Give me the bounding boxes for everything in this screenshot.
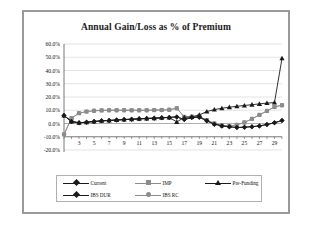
x-tick-label: 5: [93, 140, 96, 146]
x-tick-label: 3: [78, 140, 81, 146]
x-tick-label: 7: [108, 140, 111, 146]
legend-row-1: Current IMP Pre-Funding: [57, 177, 261, 189]
x-tick-label: 25: [242, 140, 248, 146]
line-marker-square-icon: [135, 179, 161, 188]
legend-item-imp[interactable]: IMP: [135, 177, 205, 189]
series-pre-funding: [61, 56, 284, 125]
x-tick-label: 21: [212, 140, 218, 146]
legend-label: IMP: [163, 180, 172, 186]
legend-label: IBS DUR: [91, 192, 111, 198]
y-tick-label: -10.0%: [44, 134, 61, 140]
line-marker-diamond-icon: [63, 191, 89, 200]
y-tick-label: 10.0%: [46, 107, 61, 113]
line-marker-diamond-icon: [63, 179, 89, 188]
legend-label: Current: [91, 180, 107, 186]
x-tick-label: 23: [227, 140, 233, 146]
legend-item-pre-funding[interactable]: Pre-Funding: [205, 177, 258, 189]
legend-label: IBS RC: [163, 192, 179, 198]
legend-label: Pre-Funding: [233, 180, 259, 186]
x-tick-label: 17: [181, 140, 187, 146]
legend-item-current[interactable]: Current: [63, 177, 135, 189]
y-tick-label: -20.0%: [44, 147, 61, 153]
x-tick-label: 19: [197, 140, 203, 146]
x-tick-label: 13: [151, 140, 157, 146]
y-tick-label: 0.0%: [48, 121, 60, 127]
line-marker-circle-icon: [135, 191, 161, 200]
chart-legend: Current IMP Pre-Funding: [56, 175, 262, 202]
x-tick-label: 29: [272, 140, 278, 146]
x-tick-label: 9: [123, 140, 126, 146]
y-tick-label: 50.0%: [46, 54, 61, 60]
y-tick-label: 20.0%: [46, 94, 61, 100]
x-tick-label: 11: [136, 140, 142, 146]
x-tick-label: 27: [257, 140, 263, 146]
y-tick-label: 30.0%: [46, 81, 61, 87]
chart-figure: Annual Gain/Loss as % of Premium 60.0%50…: [22, 10, 290, 214]
y-tick-label: 40.0%: [46, 68, 61, 74]
legend-item-ibs-dur[interactable]: IBS DUR: [63, 189, 135, 201]
legend-item-ibs-rc[interactable]: IBS RC: [135, 189, 205, 201]
x-tick-label: 15: [166, 140, 172, 146]
y-tick-label: 60.0%: [46, 41, 61, 47]
legend-row-2: IBS DUR IBS RC: [57, 189, 261, 201]
line-marker-triangle-icon: [205, 179, 231, 188]
